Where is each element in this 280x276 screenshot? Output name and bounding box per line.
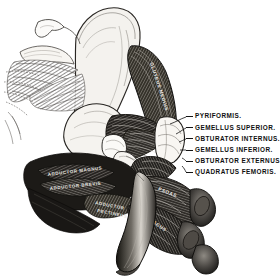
- label-row-pyriformis: PYRIFORMIS.: [186, 111, 280, 122]
- label-gemellus-superior: GEMELLUS SUPERIOR.: [195, 125, 276, 131]
- label-quadratus-femoris: QUADRATUS FEMORIS.: [195, 169, 276, 175]
- anatomical-plate: GLUTEUS MEDIUS: [0, 0, 280, 276]
- leader-dash-icon: [186, 138, 193, 139]
- label-obturator-externus: OBTURATOR EXTERNUS.: [195, 158, 280, 164]
- label-obturator-internus: OBTURATOR INTERNUS.: [195, 136, 280, 142]
- label-row-obturator-externus: OBTURATOR EXTERNUS.: [186, 156, 280, 167]
- leader-dash-icon: [186, 150, 193, 151]
- figure-caption: Fig. 438.—Posterior view of the muscles …: [0, 268, 280, 276]
- leader-dash-icon: [186, 172, 193, 173]
- leader-dash-icon: [186, 127, 193, 128]
- label-row-obturator-internus: OBTURATOR INTERNUS.: [186, 133, 280, 144]
- label-pyriformis: PYRIFORMIS.: [195, 113, 242, 119]
- label-row-quadratus-femoris: QUADRATUS FEMORIS.: [186, 167, 280, 178]
- leader-dash-icon: [186, 161, 193, 162]
- label-gemellus-inferior: GEMELLUS INFERIOR.: [195, 147, 273, 153]
- label-row-gemellus-inferior: GEMELLUS INFERIOR.: [186, 145, 280, 156]
- leader-dash-icon: [186, 116, 193, 117]
- label-list: PYRIFORMIS. GEMELLUS SUPERIOR. OBTURATOR…: [186, 111, 280, 178]
- label-row-gemellus-superior: GEMELLUS SUPERIOR.: [186, 122, 280, 133]
